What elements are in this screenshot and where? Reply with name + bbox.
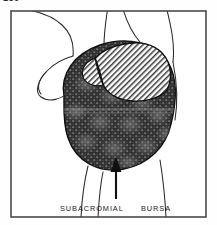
anatomical-figure: SUBACROMIAL BURSA [0, 0, 217, 225]
caption-subacromial: SUBACROMIAL [60, 204, 124, 213]
caption-bursa: BURSA [141, 204, 171, 213]
figure-root: 150 [0, 0, 217, 225]
